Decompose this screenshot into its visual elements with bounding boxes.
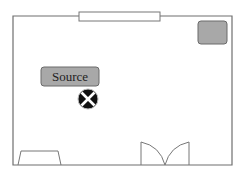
circled-x-icon: [78, 89, 98, 109]
corner-object: [198, 21, 227, 44]
source-label: Source: [52, 69, 88, 84]
door-swing-right: [165, 142, 189, 165]
door-swing-left: [141, 142, 165, 165]
trapezoid-furniture: [18, 151, 61, 165]
window: [79, 12, 160, 21]
source-box: Source: [41, 67, 99, 86]
floor-plan: Source: [0, 0, 242, 172]
double-door: [141, 142, 189, 165]
